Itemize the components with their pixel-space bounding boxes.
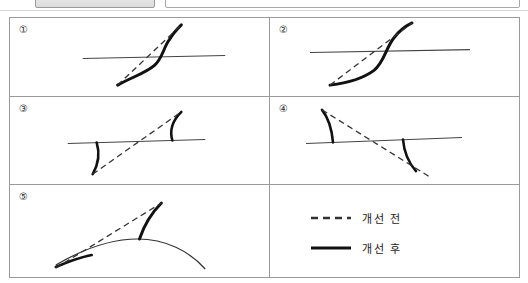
legend-item-before: 개선 전	[310, 203, 480, 233]
horizontal-reference-line	[306, 138, 462, 144]
legend-label-after: 개선 후	[362, 240, 402, 256]
legend-item-after: 개선 후	[310, 233, 480, 263]
panel-3-diagram	[10, 97, 269, 184]
panel-1-diagram	[10, 18, 269, 96]
legend-cell: 개선 전 개선 후	[270, 185, 519, 277]
legend-label-before: 개선 전	[362, 210, 402, 226]
after-improvement-hook-right	[403, 140, 416, 172]
after-improvement-hook-left	[322, 110, 333, 143]
panel-1: ①	[10, 18, 270, 97]
before-improvement-line	[56, 203, 162, 268]
panel-4: ④	[270, 97, 519, 185]
panel-4-diagram	[270, 97, 519, 184]
horizontal-reference-line	[83, 56, 225, 59]
panel-2: ②	[270, 18, 519, 97]
dome-arc	[56, 239, 205, 269]
panel-3: ③	[10, 97, 270, 185]
before-improvement-line	[322, 110, 430, 177]
panel-5: ⑤	[10, 185, 270, 277]
dashed-line-icon	[310, 213, 352, 223]
before-improvement-line	[118, 25, 182, 85]
after-improvement-curve	[140, 203, 162, 239]
figure-table: ① ② ③ ④	[9, 17, 520, 278]
horizontal-reference-line	[310, 50, 470, 53]
solid-line-icon	[310, 243, 352, 253]
toolbar-strip	[0, 0, 528, 11]
panel-2-diagram	[270, 18, 519, 96]
toolbar-divider	[0, 10, 528, 11]
toolbar-button[interactable]	[35, 0, 155, 8]
after-improvement-hook-left	[93, 142, 99, 174]
toolbar-search-input[interactable]	[165, 0, 520, 8]
before-improvement-line	[93, 112, 182, 174]
legend: 개선 전 개선 후	[310, 203, 480, 263]
panel-5-diagram	[10, 185, 269, 277]
